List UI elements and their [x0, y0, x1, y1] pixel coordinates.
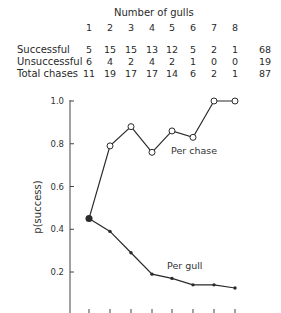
per-chase-point [149, 149, 155, 155]
y-tick-label: 0.2 [50, 267, 64, 277]
y-tick-label: 1.0 [50, 96, 64, 106]
y-tick-label: 0.8 [50, 139, 64, 149]
per-chase-label: Per chase [171, 145, 217, 156]
per-chase-line [89, 101, 235, 219]
per-gull-point [233, 286, 236, 289]
per-gull-point [170, 277, 173, 280]
per-gull-point [129, 251, 132, 254]
per-chase-point [128, 124, 134, 130]
per-gull-point [212, 283, 215, 286]
per-chase-point [211, 98, 217, 104]
per-gull-point [86, 215, 93, 222]
per-chase-point [107, 143, 113, 149]
per-gull-point [150, 272, 153, 275]
per-gull-point [191, 283, 194, 286]
per-chase-point [190, 134, 196, 140]
line-chart: 0.20.40.60.81.0p(success)Per chasePer gu… [0, 0, 281, 313]
y-tick-label: 0.4 [50, 224, 64, 234]
y-tick-label: 0.6 [50, 182, 64, 192]
per-chase-point [232, 98, 238, 104]
per-gull-point [108, 230, 111, 233]
per-chase-point [169, 128, 175, 134]
per-gull-line [89, 219, 235, 288]
per-gull-label: Per gull [167, 260, 203, 271]
y-axis-label: p(success) [32, 180, 43, 233]
